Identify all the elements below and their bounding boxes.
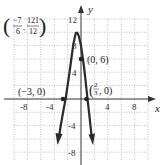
axes bbox=[4, 5, 156, 165]
left-root-point bbox=[61, 97, 66, 102]
y-tick-neg4: -4 bbox=[68, 121, 76, 131]
svg-text:6: 6 bbox=[16, 27, 20, 36]
y-intercept-label: (0, 6) bbox=[87, 54, 109, 66]
left-root-label: (−3, 0) bbox=[18, 86, 45, 98]
vertex-label: ( −7 6 , 121 12 ) bbox=[3, 13, 46, 38]
y-intercept-point bbox=[79, 57, 84, 62]
svg-text:−7: −7 bbox=[13, 16, 22, 25]
svg-text:3: 3 bbox=[94, 89, 98, 97]
svg-text:): ) bbox=[39, 13, 46, 38]
y-tick-4: 4 bbox=[72, 68, 77, 78]
x-tick-8: 8 bbox=[132, 102, 137, 112]
y-tick-8: 8 bbox=[72, 41, 77, 51]
svg-text:(: ( bbox=[3, 13, 10, 38]
y-axis-arrow-icon bbox=[78, 5, 84, 13]
x-axis-label: x bbox=[154, 102, 160, 114]
x-tick-neg8: -8 bbox=[20, 102, 28, 112]
svg-text:,: , bbox=[23, 23, 25, 32]
right-root-label: ( 2 3 , 0) bbox=[89, 81, 112, 99]
y-axis-label: y bbox=[87, 3, 93, 15]
svg-text:12: 12 bbox=[29, 27, 37, 36]
x-tick-4: 4 bbox=[105, 102, 110, 112]
y-tick-neg8: -8 bbox=[68, 148, 76, 158]
y-tick-12: 12 bbox=[68, 15, 77, 25]
svg-text:2: 2 bbox=[94, 81, 98, 89]
right-arrow-icon bbox=[89, 134, 96, 146]
svg-text:121: 121 bbox=[27, 16, 39, 25]
svg-text:, 0): , 0) bbox=[99, 85, 112, 97]
parabola-graph: -8 -4 4 8 12 8 4 -4 -8 x y ( −7 6 , 121 … bbox=[0, 0, 164, 165]
x-tick-neg4: -4 bbox=[46, 102, 54, 112]
left-arrow-icon bbox=[56, 133, 63, 145]
